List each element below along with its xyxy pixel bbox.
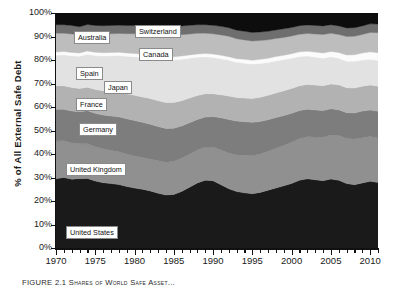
x-tick-label: 1985 bbox=[154, 255, 194, 266]
x-tick-mark-minor bbox=[87, 249, 88, 253]
x-tick-mark-minor bbox=[205, 249, 206, 253]
y-tick-label: 40% bbox=[18, 149, 52, 158]
x-tick-label: 1980 bbox=[115, 255, 155, 266]
x-tick-mark-minor bbox=[80, 249, 81, 253]
series-label-australia: Australia bbox=[74, 31, 110, 44]
x-tick-mark-major bbox=[174, 249, 175, 255]
x-tick-mark-minor bbox=[119, 249, 120, 253]
x-tick-mark-minor bbox=[221, 249, 222, 253]
x-tick-mark-minor bbox=[197, 249, 198, 253]
x-tick-mark-major bbox=[135, 249, 136, 255]
x-tick-mark-minor bbox=[182, 249, 183, 253]
x-tick-mark-minor bbox=[260, 249, 261, 253]
x-tick-mark-minor bbox=[111, 249, 112, 253]
x-tick-mark-minor bbox=[244, 249, 245, 253]
x-tick-mark-minor bbox=[190, 249, 191, 253]
y-tick-mark bbox=[51, 131, 55, 132]
x-tick-mark-minor bbox=[299, 249, 300, 253]
y-tick-label: 10% bbox=[18, 220, 52, 229]
x-tick-mark-major bbox=[213, 249, 214, 255]
y-tick-label: 0% bbox=[18, 243, 52, 252]
x-tick-label: 1970 bbox=[36, 255, 76, 266]
x-tick-mark-minor bbox=[64, 249, 65, 253]
y-tick-mark bbox=[51, 37, 55, 38]
x-tick-label: 2010 bbox=[350, 255, 390, 266]
x-tick-mark-minor bbox=[72, 249, 73, 253]
y-tick-mark bbox=[51, 201, 55, 202]
x-tick-mark-minor bbox=[166, 249, 167, 253]
x-tick-mark-major bbox=[252, 249, 253, 255]
series-label-france: France bbox=[76, 98, 107, 111]
x-tick-mark-minor bbox=[276, 249, 277, 253]
y-tick-label: 100% bbox=[18, 8, 52, 17]
x-tick-mark-minor bbox=[229, 249, 230, 253]
series-label-spain: Spain bbox=[76, 67, 103, 80]
x-tick-mark-minor bbox=[268, 249, 269, 253]
y-tick-label: 80% bbox=[18, 55, 52, 64]
x-tick-mark-minor bbox=[339, 249, 340, 253]
x-tick-label: 1990 bbox=[193, 255, 233, 266]
x-tick-mark-minor bbox=[323, 249, 324, 253]
figure-container: % of All External Safe Debt 0%10%20%30%4… bbox=[0, 0, 396, 287]
series-label-japan: Japan bbox=[104, 81, 132, 94]
x-tick-mark-minor bbox=[150, 249, 151, 253]
series-label-switzerland: Switzerland bbox=[135, 25, 181, 38]
x-tick-mark-minor bbox=[142, 249, 143, 253]
x-tick-mark-minor bbox=[354, 249, 355, 253]
x-tick-label: 1995 bbox=[232, 255, 272, 266]
x-tick-mark-minor bbox=[103, 249, 104, 253]
x-tick-mark-major bbox=[331, 249, 332, 255]
y-tick-label: 30% bbox=[18, 173, 52, 182]
x-tick-mark-major bbox=[370, 249, 371, 255]
y-tick-label: 70% bbox=[18, 79, 52, 88]
x-tick-mark-minor bbox=[347, 249, 348, 253]
y-tick-mark bbox=[51, 225, 55, 226]
y-tick-label: 60% bbox=[18, 102, 52, 111]
y-axis-tick-labels: 0%10%20%30%40%50%60%70%80%90%100% bbox=[14, 0, 52, 287]
y-tick-mark bbox=[51, 178, 55, 179]
y-tick-label: 50% bbox=[18, 126, 52, 135]
x-tick-mark-minor bbox=[284, 249, 285, 253]
figure-caption: FIGURE 2.1 Shares of World Safe Asset... bbox=[22, 278, 382, 287]
x-tick-label: 2000 bbox=[272, 255, 312, 266]
y-tick-mark bbox=[51, 84, 55, 85]
x-tick-mark-minor bbox=[378, 249, 379, 253]
y-tick-label: 90% bbox=[18, 32, 52, 41]
x-tick-mark-minor bbox=[362, 249, 363, 253]
series-label-united-states: United States bbox=[66, 226, 118, 239]
x-tick-mark-minor bbox=[127, 249, 128, 253]
y-tick-mark bbox=[51, 13, 55, 14]
y-tick-mark bbox=[51, 60, 55, 61]
x-tick-mark-minor bbox=[158, 249, 159, 253]
x-tick-mark-minor bbox=[237, 249, 238, 253]
x-tick-label: 2005 bbox=[311, 255, 351, 266]
series-label-united-kingdom: United Kingdom bbox=[66, 163, 126, 176]
x-tick-mark-minor bbox=[307, 249, 308, 253]
x-tick-mark-major bbox=[95, 249, 96, 255]
x-tick-mark-major bbox=[292, 249, 293, 255]
y-tick-mark bbox=[51, 107, 55, 108]
y-tick-mark bbox=[51, 154, 55, 155]
y-tick-label: 20% bbox=[18, 196, 52, 205]
x-tick-mark-major bbox=[56, 249, 57, 255]
x-tick-label: 1975 bbox=[75, 255, 115, 266]
x-tick-mark-minor bbox=[315, 249, 316, 253]
y-tick-mark bbox=[51, 248, 55, 249]
series-label-canada: Canada bbox=[139, 48, 173, 61]
series-label-germany: Germany bbox=[79, 123, 117, 136]
